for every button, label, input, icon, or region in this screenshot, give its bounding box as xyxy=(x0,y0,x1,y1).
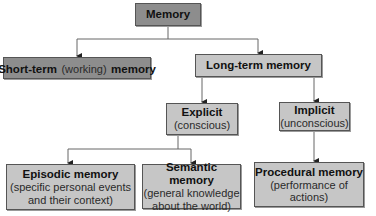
procedural-memory-node: Procedural memory (performance of action… xyxy=(254,162,364,207)
short-term-memory-node: Short-term (working) memory xyxy=(3,57,151,79)
episodic-subtitle-line2: and their context) xyxy=(28,194,113,207)
long-term-memory-node: Long-term memory xyxy=(195,54,322,77)
episodic-title: Episodic memory xyxy=(23,168,119,181)
implicit-title: Implicit xyxy=(294,104,334,117)
memory-node-title: Memory xyxy=(146,8,190,21)
procedural-title: Procedural memory xyxy=(255,166,363,179)
long-term-memory-title: Long-term memory xyxy=(206,59,311,72)
implicit-memory-node: Implicit (unconscious) xyxy=(279,102,350,131)
episodic-subtitle-line1: (specific personal events xyxy=(10,181,131,194)
procedural-subtitle-line1: (performance of xyxy=(270,179,348,192)
semantic-memory-node: Semantic memory (general knowledge about… xyxy=(142,164,241,209)
episodic-memory-node: Episodic memory (specific personal event… xyxy=(6,164,135,210)
implicit-subtitle: (unconscious) xyxy=(280,117,348,130)
semantic-subtitle-line1: (general knowledge xyxy=(143,187,239,200)
explicit-memory-node: Explicit (conscious) xyxy=(166,103,238,135)
memory-node: Memory xyxy=(135,3,201,26)
explicit-subtitle: (conscious) xyxy=(174,119,230,132)
explicit-title: Explicit xyxy=(182,106,223,119)
semantic-title: Semantic memory xyxy=(143,161,240,187)
short-term-memory-label: Short-term (working) memory xyxy=(0,59,156,77)
semantic-subtitle-line2: about the world) xyxy=(152,200,231,213)
procedural-subtitle-line2: actions) xyxy=(290,191,329,204)
